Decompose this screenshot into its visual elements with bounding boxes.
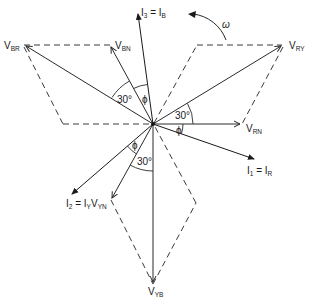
angle-label-phi-right: ϕ: [176, 126, 182, 136]
angle-label-30-bottom: 30°: [137, 157, 152, 167]
label-v-rn: VRN: [246, 124, 262, 136]
v-yb-subscript: YB: [155, 291, 164, 298]
phasor-i3: [138, 14, 153, 124]
angle-label-phi-bottom: ϕ: [132, 141, 138, 151]
label-omega: ω: [222, 20, 230, 30]
voltage-phasors: [26, 46, 281, 282]
label-v-yb: VYB: [148, 287, 163, 299]
v-bn-symbol: V: [115, 40, 122, 51]
phasor-v-ry: [153, 46, 281, 124]
angle-label-phi-top: ϕ: [142, 95, 148, 105]
v-rn-subscript: RN: [253, 128, 262, 135]
label-v-br: VBR: [4, 41, 20, 53]
i1-equals: =: [253, 165, 264, 176]
v-yn-subscript: YN: [98, 203, 107, 210]
rotation-arrowhead-icon: [188, 11, 196, 18]
v-yb-symbol: V: [148, 286, 155, 297]
phasor-v-br: [26, 46, 153, 124]
angle-label-30-top: 30°: [117, 95, 132, 105]
phasor-v-bn: [111, 47, 153, 124]
i3-equals: =: [147, 7, 158, 18]
label-v-bn: VBN: [115, 41, 131, 53]
dash-right: [242, 47, 283, 124]
v-yn-symbol: V: [91, 198, 98, 209]
v-br-subscript: BR: [11, 45, 20, 52]
i2-equals: =: [72, 198, 83, 209]
label-i2: I2 = IY: [66, 199, 91, 211]
v-ry-subscript: RY: [296, 45, 305, 52]
dash-left: [24, 47, 63, 124]
arc-phi-top: [134, 85, 148, 89]
dash-lower-right: [153, 203, 196, 284]
v-br-symbol: V: [4, 40, 11, 51]
phasor-diagram: [0, 0, 312, 304]
label-i3: I3 = IB: [141, 8, 166, 20]
current-phasors: [72, 14, 254, 194]
ib-subscript: B: [162, 12, 166, 19]
phasor-i1: [153, 124, 254, 159]
v-ry-symbol: V: [289, 40, 296, 51]
origin-point: [151, 122, 155, 126]
label-i1: I1 = IR: [247, 166, 272, 178]
rotation-indicator: [188, 11, 226, 40]
label-v-ry: VRY: [289, 41, 305, 53]
ir-subscript: R: [268, 170, 273, 177]
v-rn-symbol: V: [246, 123, 253, 134]
angle-label-30-right: 30°: [175, 111, 190, 121]
v-bn-subscript: BN: [122, 45, 131, 52]
label-v-yn: VYN: [91, 199, 107, 211]
dash-lower-left: [111, 200, 153, 284]
